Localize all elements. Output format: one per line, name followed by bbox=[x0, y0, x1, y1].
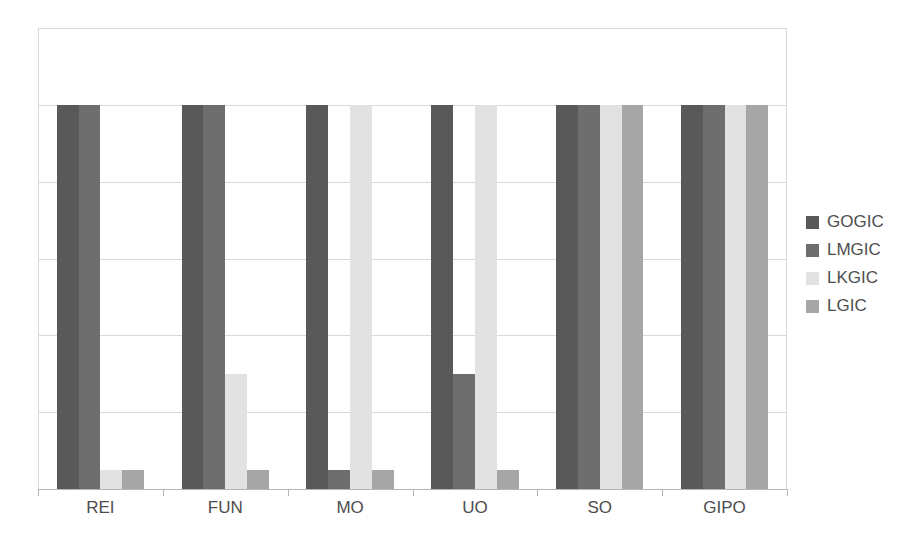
bar-group-gipo bbox=[681, 28, 768, 489]
legend-swatch-icon bbox=[806, 244, 819, 257]
bar-uo-lgic[interactable] bbox=[497, 470, 519, 489]
bar-group-rei bbox=[57, 28, 144, 489]
bar-uo-lmgic[interactable] bbox=[453, 374, 475, 489]
bar-mo-lkgic[interactable] bbox=[350, 105, 372, 489]
bar-group-uo bbox=[431, 28, 518, 489]
bar-group-so bbox=[556, 28, 643, 489]
bar-fun-gogic[interactable] bbox=[182, 105, 204, 489]
bar-rei-lmgic[interactable] bbox=[79, 105, 101, 489]
bar-fun-lkgic[interactable] bbox=[225, 374, 247, 489]
bar-mo-lgic[interactable] bbox=[372, 470, 394, 489]
legend-item-lgic[interactable]: LGIC bbox=[806, 292, 884, 320]
bar-rei-gogic[interactable] bbox=[57, 105, 79, 489]
legend-swatch-icon bbox=[806, 272, 819, 285]
bar-so-lmgic[interactable] bbox=[578, 105, 600, 489]
axis-tick bbox=[163, 489, 164, 496]
bar-fun-lgic[interactable] bbox=[247, 470, 269, 489]
bar-mo-lmgic[interactable] bbox=[328, 470, 350, 489]
bar-rei-lgic[interactable] bbox=[122, 470, 144, 489]
axis-tick bbox=[662, 489, 663, 496]
axis-tick bbox=[38, 489, 39, 496]
bar-group-mo bbox=[306, 28, 393, 489]
bar-gipo-lmgic[interactable] bbox=[703, 105, 725, 489]
legend-swatch-icon bbox=[806, 216, 819, 229]
bars-layer bbox=[38, 28, 787, 489]
bar-uo-gogic[interactable] bbox=[431, 105, 453, 489]
bar-group-fun bbox=[182, 28, 269, 489]
legend-label: LMGIC bbox=[827, 240, 881, 260]
bar-mo-gogic[interactable] bbox=[306, 105, 328, 489]
x-axis-label-gipo: GIPO bbox=[662, 498, 787, 518]
bar-rei-lkgic[interactable] bbox=[100, 470, 122, 489]
legend-item-gogic[interactable]: GOGIC bbox=[806, 208, 884, 236]
legend-item-lkgic[interactable]: LKGIC bbox=[806, 264, 884, 292]
bar-fun-lmgic[interactable] bbox=[203, 105, 225, 489]
bar-chart: REIFUNMOUOSOGIPO GOGICLMGICLKGICLGIC bbox=[0, 0, 923, 540]
legend-label: LKGIC bbox=[827, 268, 878, 288]
axis-tick bbox=[787, 489, 788, 496]
bar-so-lkgic[interactable] bbox=[600, 105, 622, 489]
x-axis-label-so: SO bbox=[537, 498, 662, 518]
bar-gipo-gogic[interactable] bbox=[681, 105, 703, 489]
legend-label: LGIC bbox=[827, 296, 867, 316]
axis-tick bbox=[413, 489, 414, 496]
x-axis-label-mo: MO bbox=[288, 498, 413, 518]
legend-swatch-icon bbox=[806, 300, 819, 313]
axis-tick bbox=[537, 489, 538, 496]
bar-gipo-lgic[interactable] bbox=[746, 105, 768, 489]
bar-so-gogic[interactable] bbox=[556, 105, 578, 489]
bar-uo-lkgic[interactable] bbox=[475, 105, 497, 489]
x-axis-label-rei: REI bbox=[38, 498, 163, 518]
x-axis-label-uo: UO bbox=[413, 498, 538, 518]
legend-label: GOGIC bbox=[827, 212, 884, 232]
legend: GOGICLMGICLKGICLGIC bbox=[806, 208, 884, 320]
x-axis-label-fun: FUN bbox=[163, 498, 288, 518]
bar-gipo-lkgic[interactable] bbox=[725, 105, 747, 489]
bar-so-lgic[interactable] bbox=[622, 105, 644, 489]
axis-tick bbox=[288, 489, 289, 496]
legend-item-lmgic[interactable]: LMGIC bbox=[806, 236, 884, 264]
